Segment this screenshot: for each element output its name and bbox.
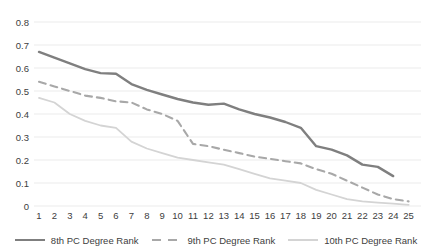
y-tick-label: 0.1 [16,178,29,189]
x-tick-label: 22 [357,210,368,221]
legend-label: 8th PC Degree Rank [51,235,139,246]
x-tick-label: 15 [249,210,260,221]
legend-swatch-dashed [152,239,182,241]
y-tick-label: 0.2 [16,155,29,166]
x-tick-label: 4 [83,210,88,221]
y-tick-label: 0 [24,201,29,212]
x-tick-label: 10 [172,210,183,221]
legend-swatch-solid-light [288,239,318,241]
y-tick-label: 0.5 [16,86,29,97]
x-tick-label: 9 [160,210,165,221]
x-tick-label: 11 [188,210,198,221]
x-tick-label: 12 [203,210,214,221]
x-tick-label: 3 [67,210,72,221]
x-tick-label: 18 [296,210,307,221]
x-tick-label: 6 [113,210,118,221]
legend-label: 10th PC Degree Rank [324,235,417,246]
legend-item-10th: 10th PC Degree Rank [288,235,417,246]
x-tick-label: 13 [219,210,230,221]
x-tick-label: 14 [234,210,245,221]
x-tick-label: 7 [129,210,134,221]
line-chart: 00.10.20.30.40.50.60.70.8123456789101112… [0,0,432,252]
chart-legend: 8th PC Degree Rank 9th PC Degree Rank 10… [0,230,432,250]
y-tick-label: 0.8 [16,17,29,28]
x-tick-label: 19 [311,210,322,221]
x-tick-label: 17 [280,210,291,221]
legend-label: 9th PC Degree Rank [188,235,276,246]
y-tick-label: 0.3 [16,132,29,143]
x-tick-label: 16 [265,210,276,221]
y-tick-label: 0.7 [16,40,29,51]
x-tick-label: 25 [403,210,414,221]
x-tick-label: 24 [388,210,399,221]
legend-swatch-solid-dark [15,239,45,241]
y-tick-label: 0.4 [16,109,29,120]
legend-item-9th: 9th PC Degree Rank [152,235,276,246]
x-tick-label: 8 [144,210,149,221]
x-tick-label: 23 [373,210,384,221]
plot-area: 00.10.20.30.40.50.60.70.8123456789101112… [0,0,432,252]
x-tick-label: 21 [342,210,353,221]
legend-item-8th: 8th PC Degree Rank [15,235,139,246]
x-tick-label: 1 [36,210,41,221]
y-tick-label: 0.6 [16,63,29,74]
x-tick-label: 20 [326,210,337,221]
x-tick-label: 5 [98,210,103,221]
x-tick-label: 2 [52,210,57,221]
